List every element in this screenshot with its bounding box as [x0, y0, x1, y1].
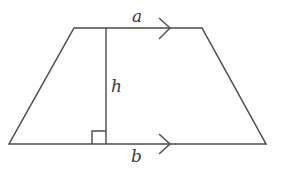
label-height: h: [111, 78, 122, 95]
label-top-side: a: [132, 8, 142, 25]
right-angle-marker: [92, 131, 106, 144]
trapezium-outline: [9, 28, 266, 144]
trapezium-diagram: [0, 0, 301, 172]
label-bottom-side: b: [131, 148, 142, 165]
